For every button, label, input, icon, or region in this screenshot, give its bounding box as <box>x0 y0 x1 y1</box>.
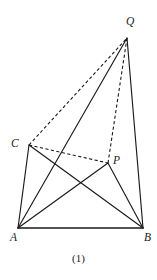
vertex-label-p: P <box>113 155 120 167</box>
figure-caption: (1) <box>0 252 157 264</box>
edges-layer <box>18 38 143 228</box>
edge-ap <box>18 163 108 228</box>
edge-pb <box>108 163 143 228</box>
vertex-label-c: C <box>11 138 19 150</box>
vertex-label-q: Q <box>126 16 134 28</box>
vertex-label-a: A <box>10 232 17 244</box>
edge-cq <box>29 38 127 145</box>
vertex-label-b: B <box>144 232 151 244</box>
geometry-figure: QCPAB (1) <box>0 0 157 280</box>
figure-canvas <box>0 0 157 280</box>
edge-bq <box>127 38 143 228</box>
edge-pq <box>108 38 127 163</box>
edge-ac <box>18 145 29 228</box>
edge-aq <box>18 38 127 228</box>
